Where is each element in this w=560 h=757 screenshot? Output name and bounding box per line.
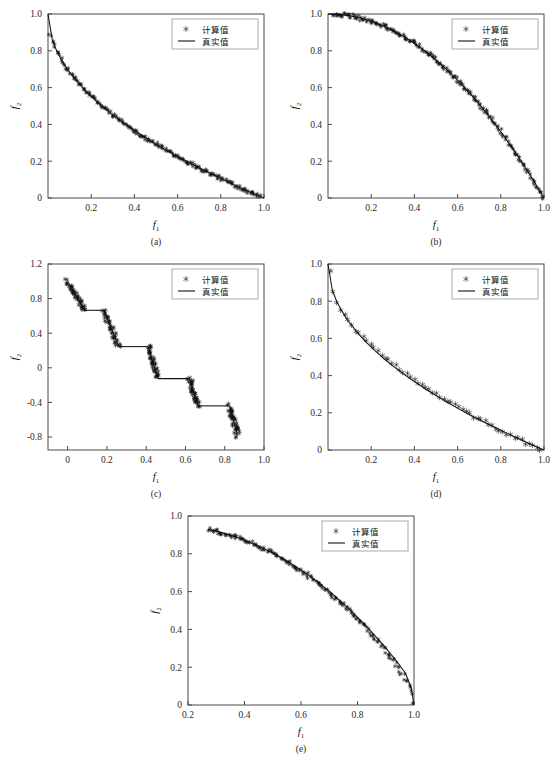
y-tick-label: 1.0 — [170, 511, 182, 521]
x-tick-label: 0.8 — [495, 203, 507, 213]
x-tick-label: 1.0 — [538, 455, 550, 465]
x-tick-label: 0.8 — [352, 710, 364, 720]
y-axis-label: f2 — [148, 607, 163, 614]
legend-truth-label: 真实值 — [202, 37, 229, 47]
x-axis-label: f1 — [433, 470, 440, 485]
x-tick-label: 0.4 — [140, 455, 152, 465]
legend-computed-label: 计算值 — [482, 275, 509, 285]
x-tick-label: 0.6 — [180, 455, 192, 465]
x-tick-label: 0.2 — [182, 710, 194, 720]
x-axis-label: f1 — [153, 470, 160, 485]
y-axis-label: f2 — [288, 353, 303, 360]
y-tick-label: 0.8 — [170, 549, 182, 559]
x-tick-label: 0.6 — [295, 710, 307, 720]
x-axis-label: f1 — [153, 218, 160, 233]
legend-computed-label: 计算值 — [482, 25, 509, 35]
y-tick-label: 0.8 — [310, 46, 322, 56]
panel-caption: (d) — [430, 489, 441, 500]
y-tick-label: 0.6 — [170, 587, 182, 597]
y-tick-label: 0 — [37, 363, 42, 373]
y-tick-label: 0.8 — [30, 46, 42, 56]
x-axis-label: f1 — [433, 218, 440, 233]
y-tick-label: 1.0 — [30, 9, 42, 19]
y-tick-label: 0.8 — [310, 297, 322, 307]
legend-truth-label: 真实值 — [202, 287, 229, 297]
y-tick-label: 0.2 — [310, 408, 322, 418]
x-tick-label: 0.2 — [85, 203, 97, 213]
y-axis-label: f2 — [8, 102, 23, 109]
x-tick-label: 0 — [65, 455, 70, 465]
y-tick-label: 0.4 — [30, 329, 42, 339]
x-tick-label: 0.6 — [452, 455, 464, 465]
y-tick-label: 0.2 — [30, 157, 42, 167]
legend: 计算值真实值 — [172, 269, 258, 299]
panel-caption: (c) — [151, 489, 162, 500]
subplot-e: 0.20.40.60.81.000.20.40.60.81.0f1f2(e)计算… — [140, 502, 430, 757]
svg-text:f2: f2 — [8, 353, 23, 360]
x-axis-label: f1 — [298, 725, 305, 740]
y-tick-label: 0.2 — [170, 663, 182, 673]
x-tick-label: 0.4 — [408, 203, 420, 213]
y-tick-label: 0.8 — [30, 294, 42, 304]
panel-caption: (b) — [430, 237, 441, 248]
y-tick-label: 0.4 — [310, 371, 322, 381]
legend-computed-label: 计算值 — [352, 527, 379, 537]
x-tick-label: 0.4 — [239, 710, 251, 720]
panel-caption: (a) — [151, 237, 162, 248]
svg-text:f2: f2 — [288, 353, 303, 360]
x-tick-label: 0.6 — [452, 203, 464, 213]
subplot-a: 0.20.40.60.81.000.20.40.60.81.0f1f2(a)计算… — [0, 0, 280, 250]
x-tick-label: 0.8 — [219, 455, 231, 465]
svg-text:f2: f2 — [8, 102, 23, 109]
legend: 计算值真实值 — [452, 19, 538, 49]
y-tick-label: 0.4 — [30, 120, 42, 130]
y-tick-label: -0.4 — [27, 398, 42, 408]
legend-computed-label: 计算值 — [202, 275, 229, 285]
x-tick-label: 0.4 — [128, 203, 140, 213]
panel-caption: (e) — [296, 744, 307, 755]
y-tick-label: -0.8 — [27, 432, 42, 442]
y-tick-label: 1.2 — [30, 259, 42, 269]
y-tick-label: 0 — [317, 193, 322, 203]
x-tick-label: 0.2 — [365, 203, 377, 213]
y-axis-label: f2 — [288, 102, 303, 109]
x-tick-label: 1.0 — [538, 203, 550, 213]
legend: 计算值真实值 — [322, 521, 408, 551]
legend: 计算值真实值 — [452, 269, 538, 299]
y-tick-label: 0.6 — [30, 83, 42, 93]
y-tick-label: 0.4 — [170, 625, 182, 635]
svg-text:f2: f2 — [288, 102, 303, 109]
x-tick-label: 1.0 — [408, 710, 420, 720]
x-tick-label: 0.6 — [172, 203, 184, 213]
legend: 计算值真实值 — [172, 19, 258, 49]
svg-text:f2: f2 — [148, 607, 163, 614]
x-tick-label: 0.8 — [215, 203, 227, 213]
y-tick-label: 0.4 — [310, 120, 322, 130]
legend-truth-label: 真实值 — [352, 539, 379, 549]
x-tick-label: 1.0 — [258, 203, 270, 213]
subplot-b: 0.20.40.60.81.000.20.40.60.81.0f1f2(b)计算… — [280, 0, 560, 250]
subplot-d: 0.20.40.60.81.000.20.40.60.81.0f1f2(d)计算… — [280, 250, 560, 502]
pareto-front-figure: 0.20.40.60.81.000.20.40.60.81.0f1f2(a)计算… — [0, 0, 560, 757]
legend-truth-label: 真实值 — [482, 287, 509, 297]
x-tick-label: 1.0 — [258, 455, 270, 465]
y-axis-label: f2 — [8, 353, 23, 360]
y-tick-label: 0 — [317, 445, 322, 455]
x-tick-label: 0.8 — [495, 455, 507, 465]
x-tick-label: 0.2 — [101, 455, 113, 465]
legend-truth-label: 真实值 — [482, 37, 509, 47]
y-tick-label: 0 — [37, 193, 42, 203]
x-tick-label: 0.4 — [408, 455, 420, 465]
y-tick-label: 1.0 — [310, 259, 322, 269]
subplot-c: 00.20.40.60.81.0-0.8-0.400.40.81.2f1f2(c… — [0, 250, 280, 502]
y-tick-label: 1.0 — [310, 9, 322, 19]
legend-computed-label: 计算值 — [202, 25, 229, 35]
x-tick-label: 0.2 — [365, 455, 377, 465]
y-tick-label: 0.2 — [310, 157, 322, 167]
y-tick-label: 0.6 — [310, 83, 322, 93]
y-tick-label: 0.6 — [310, 334, 322, 344]
y-tick-label: 0 — [177, 700, 182, 710]
